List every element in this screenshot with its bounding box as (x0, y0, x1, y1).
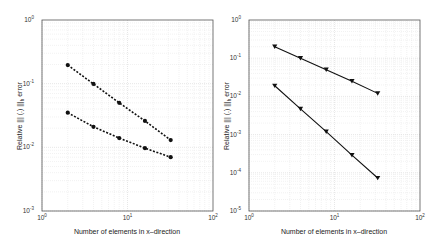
svg-text:102: 102 (415, 213, 425, 221)
circle-marker (143, 146, 147, 150)
left-x-axis-label: Number of elements in x–direction (74, 228, 180, 235)
circle-marker (169, 155, 173, 159)
circle-marker (66, 63, 70, 67)
svg-text:10-5: 10-5 (230, 206, 242, 214)
svg-text:10-3: 10-3 (23, 206, 35, 214)
svg-text:10-2: 10-2 (230, 91, 242, 99)
left-plot: 10010110210-310-210-1100 (23, 15, 219, 221)
svg-text:102: 102 (208, 213, 218, 221)
y-tick-labels: 10-310-210-1100 (23, 15, 35, 214)
svg-text:10-3: 10-3 (230, 130, 242, 138)
circle-marker (117, 136, 121, 140)
svg-text:10-1: 10-1 (23, 79, 35, 87)
svg-text:101: 101 (123, 213, 133, 221)
svg-text:100: 100 (244, 213, 254, 221)
x-tick-labels: 100101102 (244, 213, 425, 221)
figure-canvas: 10010110210-310-210-1100 10010110210-510… (0, 0, 440, 245)
x-tick-labels: 100101102 (37, 213, 218, 221)
circle-marker (169, 138, 173, 142)
circle-marker (143, 119, 147, 123)
right-x-axis-label: Number of elements in x–direction (281, 228, 387, 235)
svg-text:10-1: 10-1 (230, 53, 242, 61)
y-tick-labels: 10-510-410-310-210-1100 (230, 15, 242, 214)
svg-text:100: 100 (37, 213, 47, 221)
svg-text:10-4: 10-4 (230, 168, 242, 176)
circle-marker (91, 82, 95, 86)
right-plot: 10010110210-510-410-310-210-1100 (230, 15, 426, 221)
svg-text:10-2: 10-2 (23, 142, 35, 150)
svg-text:100: 100 (24, 15, 34, 23)
left-y-axis-label: Relative ||| (.) |||h error (16, 81, 25, 150)
circle-marker (117, 101, 121, 105)
svg-text:100: 100 (231, 15, 241, 23)
circle-marker (91, 125, 95, 129)
circle-marker (66, 111, 70, 115)
svg-text:101: 101 (330, 213, 340, 221)
